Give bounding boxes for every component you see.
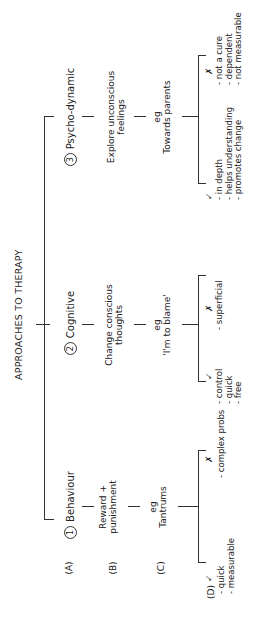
pros-drop [198,381,206,382]
approach-psychodynamic-heading: 3Psycho-dynamic [64,59,77,175]
approach-psychodynamic-example: eg Towards parents [152,67,172,167]
number-circle-1: 1 [64,526,77,539]
approach-behaviour-example: eg Tantrums [148,467,168,547]
cross-icon: ✗ [204,304,214,312]
approach-cognitive-method: Change conscious thoughts [104,270,124,380]
number-circle-3: 3 [64,153,77,166]
pros-list-psychodynamic: in depth helps understanding promotes ch… [215,107,244,200]
example-text: 'I'm to blame' [162,275,172,375]
con-item: complex probs [217,410,227,478]
pros-drop [198,562,206,563]
approach-name: Behaviour [65,471,76,522]
pros-cons-bar [198,451,199,563]
branch-drop-behaviour [44,519,54,520]
pro-item: free [234,369,244,404]
eg-label: eg [152,67,162,167]
cons-drop [198,55,206,56]
pros-list-behaviour: quick measurable [217,538,236,594]
cons-list-behaviour: complex probs [217,410,227,478]
connector-line [128,506,140,507]
connector-line [82,324,94,325]
connector-line [178,506,198,507]
center-stem-line [36,324,50,325]
cons-list-cognitive: superficial [215,280,225,330]
main-branch-line [44,116,45,520]
row-label-b: (B) [108,558,118,578]
approach-cognitive-example: eg 'I'm to blame' [152,275,172,375]
method-line: feelings [116,57,126,177]
row-label-a: (A) [64,558,74,578]
example-text: Towards parents [162,67,172,167]
connector-line [134,116,146,117]
check-icon: ✓ [204,574,214,582]
connector-line [82,506,94,507]
approach-name: Psycho-dynamic [65,68,76,149]
method-line: Reward + [98,467,108,547]
approach-behaviour-heading: 1Behaviour [64,460,77,550]
con-item: not measurable [234,12,244,85]
check-icon: ✓ [204,192,214,200]
cons-drop [198,275,206,276]
diagram-title: APPROACHES TO THERAPY [14,250,24,380]
cons-drop [198,450,206,451]
cross-icon: ✗ [204,455,214,463]
connector-line [82,116,94,117]
method-line: thoughts [114,270,124,380]
connector-line [134,324,146,325]
eg-label: eg [148,467,158,547]
row-label-c: (C) [156,558,166,578]
pros-cons-bar [198,276,199,382]
branch-drop-psychodynamic [44,116,54,117]
approach-behaviour-method: Reward + punishment [98,467,118,547]
pro-item: promotes change [234,107,244,200]
cons-list-psychodynamic: not a cure dependent not measurable [215,12,244,85]
pros-drop [198,183,206,184]
approach-cognitive-heading: 2Cognitive [64,278,77,368]
eg-label: eg [152,275,162,375]
pros-cons-bar [198,56,199,184]
con-item: superficial [215,280,225,330]
example-text: Tantrums [158,467,168,547]
number-circle-2: 2 [64,342,77,355]
pro-item: measurable [227,538,237,594]
check-icon: ✓ [204,372,214,380]
connector-line [182,116,198,117]
connector-line [182,324,198,325]
cross-icon: ✗ [204,67,214,75]
approach-name: Cognitive [65,291,76,338]
therapy-tree-diagram: APPROACHES TO THERAPY (A) (B) (C) (D) 1B… [0,0,273,630]
method-line: punishment [108,467,118,547]
pros-list-cognitive: control quick free [215,369,244,404]
method-line: Explore unconscious [106,57,116,177]
method-line: Change conscious [104,270,114,380]
row-label-d: (D) [206,582,216,602]
approach-psychodynamic-method: Explore unconscious feelings [106,57,126,177]
